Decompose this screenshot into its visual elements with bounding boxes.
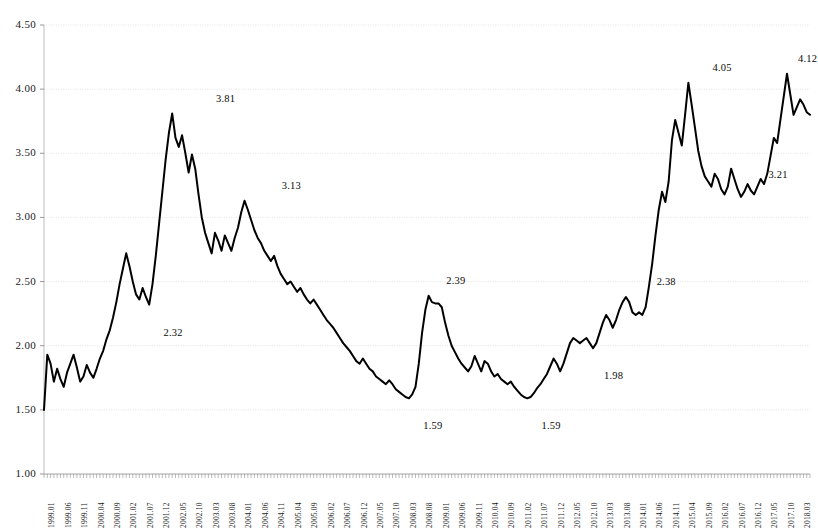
- line-chart: 4.504.003.503.002.502.001.501.00 1999.01…: [0, 0, 818, 532]
- x-axis-tick-label: 2003.08: [228, 502, 237, 528]
- y-axis-tick-label: 1.00: [0, 467, 36, 479]
- x-axis-tick-label: 2004.06: [261, 502, 270, 528]
- x-axis-tick-label: 2000.04: [97, 502, 106, 528]
- y-axis-tick-label: 4.50: [0, 18, 36, 30]
- x-axis-tick-label: 2014.11: [672, 503, 681, 529]
- x-axis-tick-label: 1999.01: [47, 502, 56, 528]
- data-point-label: 2.32: [164, 327, 183, 338]
- y-axis-tick-label: 3.00: [0, 210, 36, 222]
- x-axis-tick-label: 2008.03: [409, 502, 418, 528]
- x-axis-tick-label: 2011.12: [557, 503, 566, 529]
- x-axis-tick-label: 1999.11: [80, 503, 89, 529]
- data-point-label: 2.38: [657, 276, 676, 287]
- x-axis-tick-label: 2002.05: [179, 502, 188, 528]
- data-point-label: 1.59: [423, 420, 442, 431]
- x-axis-tick-label: 2007.10: [392, 502, 401, 528]
- y-axis-tick-label: 2.00: [0, 339, 36, 351]
- x-axis-tick-label: 2008.08: [425, 502, 434, 528]
- x-axis-tick-label: 2015.04: [688, 502, 697, 528]
- data-point-label: 1.98: [604, 370, 623, 381]
- x-axis-tick-label: 2012.10: [590, 502, 599, 528]
- x-axis-tick-label: 2002.10: [195, 502, 204, 528]
- y-axis-tick-label: 3.50: [0, 146, 36, 158]
- x-axis-tick-label: 2017.05: [770, 502, 779, 528]
- x-axis-tick-label: 2006.07: [343, 502, 352, 528]
- x-axis-tick-label: 2011.02: [524, 503, 533, 529]
- x-axis-tick-label: 2015.09: [705, 502, 714, 528]
- x-axis-tick-label: 2004.01: [244, 502, 253, 528]
- x-axis-tick-label: 2000.09: [113, 502, 122, 528]
- x-axis-tick-label: 2013.03: [606, 502, 615, 528]
- x-axis-tick-label: 2013.08: [623, 502, 632, 528]
- x-axis-tick-label: 2001.02: [129, 502, 138, 528]
- x-axis-tick-label: 2005.09: [310, 502, 319, 528]
- x-axis-tick-label: 2012.05: [573, 502, 582, 528]
- x-axis-tick-label: 2001.07: [146, 502, 155, 528]
- x-axis-tick-label: 2006.12: [360, 502, 369, 528]
- x-axis-tick-label: 2018.03: [803, 502, 812, 528]
- data-point-label: 1.59: [542, 420, 561, 431]
- x-axis-tick-label: 2014.06: [655, 502, 664, 528]
- x-axis-tick-label: 2001.12: [162, 502, 171, 528]
- x-axis-tick-label: 2010.09: [507, 502, 516, 528]
- x-axis-tick-label: 2017.10: [787, 502, 796, 528]
- data-line-series-value: [44, 74, 810, 410]
- gridlines: [44, 25, 810, 474]
- data-point-label: 3.21: [768, 169, 787, 180]
- x-axis-tick-label: 2011.07: [540, 503, 549, 529]
- data-point-label: 3.13: [282, 180, 301, 191]
- x-axis-tick-label: 2005.04: [294, 502, 303, 528]
- data-point-label: 3.81: [216, 93, 235, 104]
- data-point-label: 4.12: [798, 53, 817, 64]
- x-axis-tick-label: 2014.01: [639, 502, 648, 528]
- x-axis-tick-label: 2009.11: [475, 503, 484, 529]
- x-axis-tick-label: 2009.01: [442, 502, 451, 528]
- x-axis-tick-label: 2016.07: [738, 502, 747, 528]
- x-axis-tick-label: 2007.05: [376, 502, 385, 528]
- x-axis-tick-label: 1999.06: [64, 502, 73, 528]
- x-axis-tick-label: 2010.04: [491, 502, 500, 528]
- x-axis-tick-label: 2003.03: [212, 502, 221, 528]
- x-axis-ticks: [44, 474, 810, 478]
- y-axis-tick-label: 4.00: [0, 82, 36, 94]
- data-point-label: 4.05: [713, 62, 732, 73]
- x-axis-tick-label: 2016.12: [754, 502, 763, 528]
- x-axis-tick-label: 2004.11: [277, 503, 286, 529]
- y-axis-tick-label: 2.50: [0, 275, 36, 287]
- y-axis-tick-label: 1.50: [0, 403, 36, 415]
- x-axis-tick-label: 2009.06: [458, 502, 467, 528]
- data-point-label: 2.39: [446, 275, 465, 286]
- x-axis-tick-label: 2006.02: [327, 502, 336, 528]
- x-axis-tick-label: 2016.02: [721, 502, 730, 528]
- chart-canvas: [0, 0, 818, 532]
